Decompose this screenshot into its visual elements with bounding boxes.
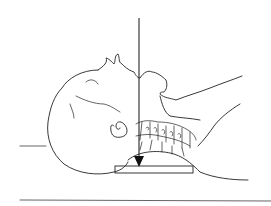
- head-outline: [48, 70, 128, 174]
- cervical-spine: [136, 121, 196, 156]
- support-pad: [115, 166, 193, 173]
- jaw-line: [160, 96, 200, 120]
- eye-brow: [86, 80, 98, 84]
- head-neck-diagram: [0, 0, 271, 206]
- illustration: [0, 0, 271, 206]
- shoulder: [198, 104, 240, 146]
- floor-line: [20, 200, 271, 201]
- temple: [70, 104, 74, 118]
- cheek: [76, 96, 120, 112]
- ear: [111, 122, 127, 137]
- face-profile: [98, 54, 242, 100]
- arrow-head-icon: [134, 156, 144, 167]
